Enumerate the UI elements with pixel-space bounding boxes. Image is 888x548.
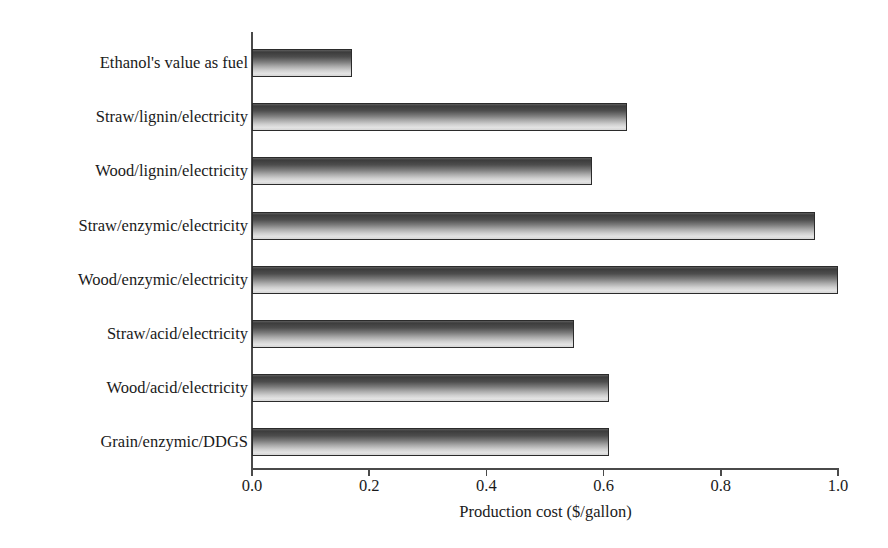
bar <box>252 49 352 77</box>
bar <box>252 428 609 456</box>
bar-row <box>252 157 592 185</box>
x-axis-tick-mark <box>251 468 253 476</box>
x-axis-tick-mark <box>368 468 370 476</box>
bar-row <box>252 428 609 456</box>
x-axis-tick-label: 1.0 <box>803 478 873 495</box>
bar-row <box>252 266 838 294</box>
x-axis-tick-label: 0.8 <box>686 478 756 495</box>
category-label: Wood/enzymic/electricity <box>0 272 248 289</box>
x-axis-tick-label: 0.2 <box>334 478 404 495</box>
bar-row <box>252 212 815 240</box>
bar-chart: Ethanol's value as fuelStraw/lignin/elec… <box>0 0 888 548</box>
x-axis-tick-mark <box>486 468 488 476</box>
category-label: Ethanol's value as fuel <box>0 55 248 72</box>
x-axis-tick-label: 0.6 <box>569 478 639 495</box>
category-label: Wood/acid/electricity <box>0 380 248 397</box>
x-axis-tick-label: 0.4 <box>451 478 521 495</box>
category-label: Grain/enzymic/DDGS <box>0 434 248 451</box>
bar <box>252 266 838 294</box>
bar-row <box>252 49 352 77</box>
x-axis-tick-mark <box>837 468 839 476</box>
bar-row <box>252 103 627 131</box>
x-axis-tick-label: 0.0 <box>217 478 287 495</box>
bar-row <box>252 320 574 348</box>
bar-row <box>252 374 609 402</box>
bar <box>252 374 609 402</box>
category-label: Straw/enzymic/electricity <box>0 218 248 235</box>
bar <box>252 320 574 348</box>
category-label: Straw/acid/electricity <box>0 326 248 343</box>
x-axis-title: Production cost ($/gallon) <box>252 504 839 521</box>
bar <box>252 157 592 185</box>
y-axis-line <box>251 32 253 469</box>
x-axis-tick-mark <box>603 468 605 476</box>
x-axis-line <box>252 468 839 470</box>
category-label: Wood/lignin/electricity <box>0 163 248 180</box>
bar <box>252 212 815 240</box>
x-axis-tick-mark <box>720 468 722 476</box>
bar <box>252 103 627 131</box>
category-label: Straw/lignin/electricity <box>0 109 248 126</box>
